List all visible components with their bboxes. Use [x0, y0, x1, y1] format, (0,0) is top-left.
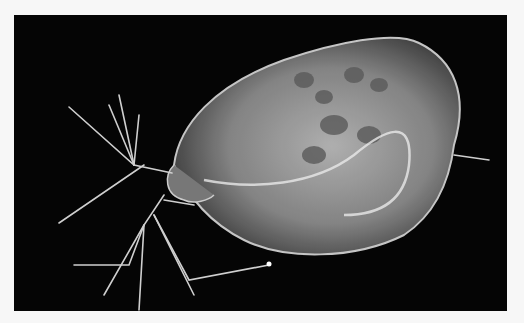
daphnia-photo	[14, 15, 507, 311]
daphnia-illustration	[14, 15, 507, 311]
